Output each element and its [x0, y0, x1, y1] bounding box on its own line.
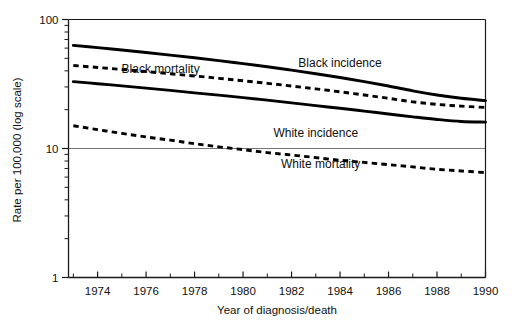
x-tick-label-1974: 1974 — [85, 285, 111, 297]
y-tick-label-100: 100 — [39, 14, 58, 26]
x-tick-label-1980: 1980 — [230, 285, 256, 297]
series-label-black-incidence: Black incidence — [298, 56, 382, 70]
series-label-white-mortality: White mortality — [281, 157, 360, 171]
line-chart: 100101 197419761978198019821984198619881… — [0, 0, 521, 324]
x-tick-label-1984: 1984 — [327, 285, 353, 297]
x-tick-label-1988: 1988 — [424, 285, 450, 297]
x-tick-label-1990: 1990 — [473, 285, 499, 297]
y-axis-tick-labels: 100101 — [39, 14, 58, 284]
chart-container: 100101 197419761978198019821984198619881… — [0, 0, 521, 324]
y-axis-title: Rate per 100,000 (log scale) — [11, 77, 23, 222]
x-axis-title: Year of diagnosis/death — [217, 304, 337, 316]
x-tick-label-1986: 1986 — [376, 285, 402, 297]
series-label-white-incidence: White incidence — [273, 126, 358, 140]
x-tick-label-1976: 1976 — [133, 285, 159, 297]
series-annotations: Black incidenceBlack mortalityWhite inci… — [122, 56, 382, 171]
x-tick-label-1982: 1982 — [279, 285, 305, 297]
series-label-black-mortality: Black mortality — [122, 62, 200, 76]
y-tick-label-10: 10 — [46, 143, 59, 155]
x-tick-label-1978: 1978 — [182, 285, 208, 297]
y-tick-label-1: 1 — [52, 272, 58, 284]
x-axis-tick-labels: 197419761978198019821984198619881990 — [85, 285, 499, 297]
